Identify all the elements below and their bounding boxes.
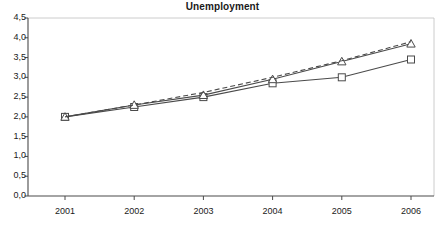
- x-axis-label: 2006: [391, 206, 431, 216]
- data-series-layer: [61, 40, 415, 121]
- series-1: [62, 56, 415, 120]
- y-axis-label: 1,0: [0, 150, 26, 160]
- y-axis-label: 1,5: [0, 131, 26, 141]
- y-axis-label: 3,0: [0, 71, 26, 81]
- series-line-2: [65, 44, 411, 117]
- x-axis-label: 2005: [322, 206, 362, 216]
- x-axis-label: 2001: [45, 206, 85, 216]
- y-axis-label: 4,5: [0, 12, 26, 22]
- unemployment-chart: Unemployment 0,00,51,01,52,02,53,03,54,0…: [0, 0, 445, 237]
- series-line-3: [65, 42, 411, 117]
- x-axis-label: 2002: [114, 206, 154, 216]
- y-axis-label: 0,5: [0, 170, 26, 180]
- marker-triangle: [407, 40, 415, 48]
- plot-frame: [28, 18, 434, 196]
- y-axis-label: 4,0: [0, 32, 26, 42]
- y-axis-label: 2,0: [0, 111, 26, 121]
- chart-plot-area: [0, 0, 445, 237]
- series-3: [65, 42, 411, 117]
- marker-square: [408, 56, 415, 63]
- y-axis-label: 2,5: [0, 91, 26, 101]
- axis-tick-marks: [25, 18, 412, 200]
- y-axis-label: 3,5: [0, 52, 26, 62]
- y-axis-label: 0,0: [0, 190, 26, 200]
- marker-square: [338, 74, 345, 81]
- x-axis-label: 2003: [183, 206, 223, 216]
- x-axis-label: 2004: [253, 206, 293, 216]
